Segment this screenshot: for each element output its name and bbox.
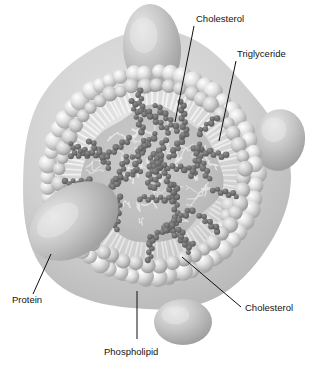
membrane-cholesterol-chain [175, 227, 181, 233]
membrane-cholesterol-chain [210, 188, 216, 194]
core-lipid-chain [146, 109, 152, 115]
phospholipid-head [236, 150, 249, 163]
core-lipid-chain [157, 109, 163, 115]
membrane-cholesterol-chain [196, 213, 202, 219]
lipoprotein-figure: CholesterolTriglycerideProteinPhospholip… [0, 0, 314, 367]
core-lipid-chain [129, 98, 135, 104]
callout-label-cholesterol-bottom: Cholesterol [245, 302, 293, 313]
core-lipid-chain [124, 158, 130, 164]
membrane-cholesterol-chain [182, 242, 188, 248]
core-lipid-chain [165, 223, 170, 228]
core-lipid-chain [207, 176, 212, 181]
membrane-cholesterol-chain [215, 187, 220, 192]
core-lipid-chain [157, 104, 163, 110]
core-lipid-chain [123, 154, 128, 159]
membrane-cholesterol-chain [142, 111, 148, 117]
core-lipid-chain [164, 125, 170, 131]
core-lipid-chain [118, 144, 124, 150]
protein-bottom-highlight [162, 306, 190, 324]
core-lipid-chain [153, 103, 158, 108]
core-lipid-chain [142, 142, 149, 149]
core-lipid-chain [172, 233, 178, 239]
phospholipid-head [165, 255, 180, 270]
membrane-cholesterol-chain [207, 219, 213, 225]
core-lipid-chain [168, 122, 173, 127]
membrane-cholesterol-chain [203, 126, 209, 132]
phospholipid-head [150, 78, 163, 91]
phospholipid-head [237, 161, 253, 177]
core-lipid-chain [151, 135, 158, 142]
membrane-cholesterol-chain [186, 250, 191, 255]
membrane-cholesterol-chain [214, 115, 220, 121]
core-lipid-chain [173, 123, 179, 129]
core-lipid-chain [176, 217, 182, 223]
core-lipid-chain [126, 135, 132, 141]
callout-label-cholesterol-top: Cholesterol [196, 13, 244, 24]
core-lipid-chain [99, 154, 105, 160]
core-lipid-chain [121, 166, 126, 171]
membrane-cholesterol-chain [198, 127, 203, 132]
core-lipid-chain [164, 178, 170, 184]
callout-label-protein: Protein [12, 294, 42, 305]
lipoprotein-diagram: CholesterolTriglycerideProteinPhospholip… [0, 0, 314, 367]
core-lipid-chain [159, 140, 164, 145]
core-lipid-chain [118, 174, 124, 180]
protein-bottom [154, 299, 212, 345]
membrane-cholesterol-chain [197, 131, 203, 137]
callout-label-triglyceride: Triglyceride [237, 48, 286, 59]
core-lipid-chain [163, 227, 169, 233]
membrane-cholesterol-chain [201, 214, 207, 220]
core-lipid-chain [130, 154, 136, 160]
phospholipid-head [128, 255, 143, 270]
core-lipid-chain [178, 213, 183, 218]
core-lipid-chain [158, 120, 164, 126]
core-lipid-chain [114, 227, 120, 233]
core-lipid-chain [159, 125, 165, 131]
membrane-cholesterol-chain [208, 120, 214, 126]
core-lipid-chain [123, 176, 129, 182]
core-lipid-chain [198, 153, 204, 159]
core-lipid-chain [183, 212, 189, 218]
phospholipid-head [162, 79, 176, 93]
core-lipid-chain [169, 222, 176, 229]
core-lipid-chain [119, 139, 125, 145]
core-lipid-chain [168, 117, 174, 123]
core-lipid-chain [137, 158, 143, 164]
core-lipid-chain [137, 197, 143, 203]
core-lipid-chain [134, 115, 139, 120]
phospholipid-head [53, 163, 66, 176]
membrane-cholesterol-chain [90, 150, 96, 156]
core-lipid-chain [106, 165, 112, 171]
core-lipid-chain [106, 149, 112, 155]
phospholipid-head [124, 79, 139, 94]
core-lipid-chain [152, 131, 157, 136]
core-lipid-chain [86, 139, 92, 145]
callout-label-phospholipid: Phospholipid [104, 346, 158, 357]
membrane-cholesterol-chain [147, 234, 152, 239]
core-lipid-chain [165, 130, 171, 136]
phospholipid-head [173, 82, 186, 95]
membrane-cholesterol-chain [204, 122, 209, 127]
core-lipid-chain [223, 151, 230, 158]
membrane-cholesterol-chain [202, 219, 208, 225]
core-lipid-chain [68, 153, 74, 159]
core-lipid-chain [152, 168, 159, 175]
core-lipid-chain [141, 138, 147, 144]
